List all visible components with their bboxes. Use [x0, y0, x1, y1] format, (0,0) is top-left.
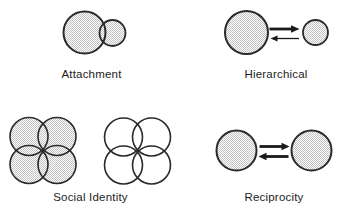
hierarchical-diagram [225, 11, 328, 54]
reciprocity-label: Reciprocity [244, 191, 303, 203]
diagram-canvas [0, 0, 348, 214]
reciprocity-diagram [217, 131, 332, 171]
reciprocity-right-circle [292, 131, 332, 171]
social-identity-outline-cluster [105, 118, 171, 184]
hierarchical-large-circle [225, 11, 268, 54]
reciprocity-left-circle [217, 131, 257, 171]
social-identity-label: Social Identity [53, 191, 128, 203]
hierarchical-label: Hierarchical [244, 68, 307, 80]
thin-arrow-left-icon [271, 36, 300, 42]
thick-arrow-right-icon [270, 25, 300, 33]
thick-arrow-left-icon [259, 153, 289, 161]
relationship-types-figure: Attachment Hierarchical Social Identity … [0, 0, 348, 214]
thick-arrow-right-icon [260, 143, 290, 151]
attachment-label: Attachment [61, 68, 121, 80]
attachment-diagram [64, 12, 126, 54]
hierarchical-small-circle [303, 20, 328, 45]
social-identity-stippled-cluster [10, 118, 76, 184]
